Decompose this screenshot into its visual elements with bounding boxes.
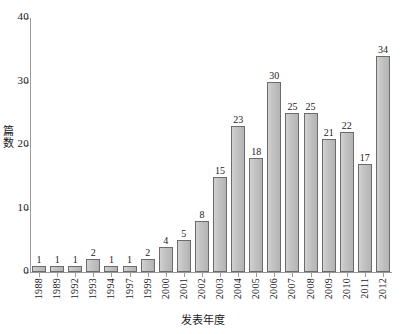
bar-rect[interactable] [123,266,137,272]
bar-item[interactable]: 1 [66,18,84,272]
bar-item[interactable]: 1 [30,18,48,272]
bar-rect[interactable] [304,113,318,272]
x-tick: 1994 [102,273,120,313]
bar-value-label: 30 [269,70,279,81]
x-tick-label: 1992 [70,278,80,299]
x-tick-mark [93,273,94,277]
x-tick: 1992 [66,273,84,313]
bar-rect[interactable] [50,266,64,272]
bar-rect[interactable] [231,126,245,272]
x-tick: 2012 [374,273,392,313]
x-tick-mark [256,273,257,277]
x-tick-label: 2008 [306,278,316,299]
bar-value-label: 8 [199,209,204,220]
bar-item[interactable]: 5 [175,18,193,272]
bar-value-label: 4 [163,235,168,246]
bar-rect[interactable] [213,177,227,272]
x-tick: 1999 [139,273,157,313]
bar-value-label: 25 [287,101,297,112]
bar-item[interactable]: 25 [283,18,301,272]
x-tick: 2001 [175,273,193,313]
x-tick-label: 2006 [269,278,279,299]
bar-rect[interactable] [32,266,46,272]
x-tick: 2002 [193,273,211,313]
x-tick-mark [166,273,167,277]
bar-rect[interactable] [340,132,354,272]
x-tick-mark [57,273,58,277]
x-tick-label: 2004 [233,278,243,299]
x-tick: 2005 [247,273,265,313]
y-axis-title: 篇数 [1,126,15,150]
x-tick: 1988 [30,273,48,313]
bar-value-label: 23 [233,114,243,125]
x-tick-label: 2010 [342,278,352,299]
bar-item[interactable]: 34 [374,18,392,272]
bar-value-label: 1 [73,254,78,265]
x-tick: 2006 [265,273,283,313]
x-tick: 1993 [84,273,102,313]
bar-item[interactable]: 30 [265,18,283,272]
x-tick-mark [329,273,330,277]
bar-rect[interactable] [249,158,263,272]
bar-item[interactable]: 2 [139,18,157,272]
bar-item[interactable]: 8 [193,18,211,272]
bar-item[interactable]: 1 [102,18,120,272]
bar-rect[interactable] [267,82,281,273]
x-tick: 2000 [157,273,175,313]
bar-item[interactable]: 21 [320,18,338,272]
x-tick-mark [220,273,221,277]
x-tick-mark [238,273,239,277]
bar-rect[interactable] [358,164,372,272]
x-tick-label: 1999 [143,278,153,299]
bar-item[interactable]: 22 [338,18,356,272]
x-tick-mark [347,273,348,277]
y-tick-label: 10 [5,201,29,213]
bar-item[interactable]: 2 [84,18,102,272]
x-tick-label: 1988 [34,278,44,299]
bar-rect[interactable] [322,139,336,272]
x-axis-title: 发表年度 [0,314,406,328]
bar-rect[interactable] [86,259,100,272]
bar-value-label: 1 [109,254,114,265]
bar-value-label: 1 [55,254,60,265]
bar-item[interactable]: 4 [157,18,175,272]
bar-rect[interactable] [177,240,191,272]
x-tick: 2007 [283,273,301,313]
bar-item[interactable]: 17 [356,18,374,272]
bar-item[interactable]: 1 [48,18,66,272]
x-axis-ticks: 1988198919921993199419971999200020012002… [30,273,392,313]
bar-rect[interactable] [141,259,155,272]
bar-item[interactable]: 15 [211,18,229,272]
x-tick-mark [274,273,275,277]
x-tick: 2008 [302,273,320,313]
x-tick-mark [184,273,185,277]
bar-rect[interactable] [104,266,118,272]
x-tick-label: 1993 [88,278,98,299]
x-tick-mark [75,273,76,277]
bar-item[interactable]: 25 [302,18,320,272]
x-tick-mark [311,273,312,277]
bar-rect[interactable] [68,266,82,272]
bar-item[interactable]: 18 [247,18,265,272]
x-tick-label: 2000 [161,278,171,299]
x-tick-label: 2005 [251,278,261,299]
x-tick: 1997 [121,273,139,313]
x-tick: 2009 [320,273,338,313]
x-tick-label: 1994 [106,278,116,299]
bar-item[interactable]: 1 [121,18,139,272]
bar-rect[interactable] [159,247,173,272]
x-tick-mark [365,273,366,277]
bar-rect[interactable] [285,113,299,272]
x-tick: 2010 [338,273,356,313]
bar-item[interactable]: 23 [229,18,247,272]
bar-series: 111211245815231830252521221734 [30,18,392,272]
x-tick-label: 2003 [215,278,225,299]
bar-value-label: 17 [360,152,370,163]
bar-value-label: 2 [145,247,150,258]
bar-rect[interactable] [376,56,390,272]
x-tick-label: 2011 [360,278,370,299]
bar-value-label: 1 [127,254,132,265]
bar-rect[interactable] [195,221,209,272]
x-tick-mark [39,273,40,277]
x-tick: 2004 [229,273,247,313]
